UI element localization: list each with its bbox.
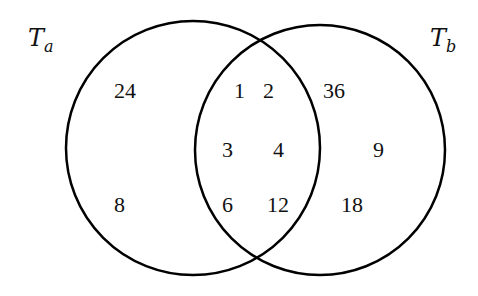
- region-a-value: 24: [114, 78, 136, 103]
- region-a-value: 8: [114, 192, 125, 217]
- intersection-value: 3: [222, 137, 233, 162]
- region-b-value: 9: [373, 137, 384, 162]
- venn-diagram: Ta Tb 24 8 1 2 3 4 6 12 36 9 18: [0, 0, 478, 296]
- set-a-label: Ta: [28, 24, 54, 56]
- region-b-value: 18: [341, 192, 363, 217]
- intersection-value: 4: [273, 137, 284, 162]
- intersection-value: 6: [222, 192, 233, 217]
- set-b-label: Tb: [430, 24, 456, 56]
- intersection-value: 1: [234, 78, 245, 103]
- intersection-value: 12: [267, 192, 289, 217]
- region-b-value: 36: [323, 78, 345, 103]
- intersection-value: 2: [263, 78, 274, 103]
